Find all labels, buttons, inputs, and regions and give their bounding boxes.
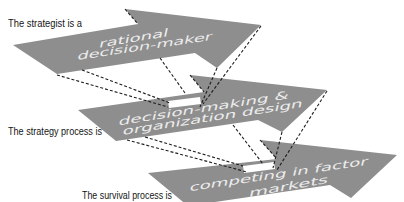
strategy-levels-diagram: rational decision-maker decision-making …: [0, 0, 404, 202]
dashed-connector: [82, 70, 170, 103]
label-strategy-process: The strategy process is: [8, 126, 102, 137]
arrow-decision-making-organization-design: decision-making & organization design: [78, 75, 327, 141]
dashed-connector: [145, 137, 243, 166]
label-survival-process: The survival process is: [82, 190, 172, 201]
dashed-connector: [160, 58, 185, 93]
dashed-connector: [233, 125, 263, 164]
dashed-connector: [127, 140, 247, 172]
label-strategist: The strategist is a: [8, 18, 82, 29]
